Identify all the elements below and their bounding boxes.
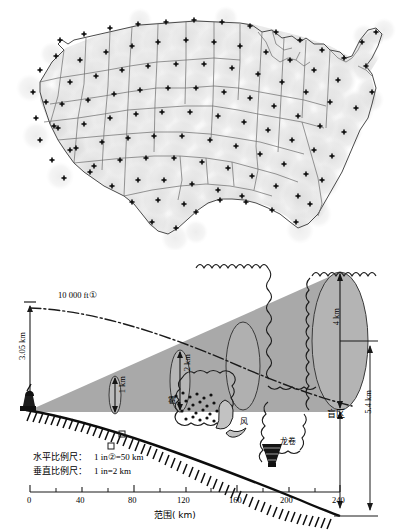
label-beam-width-1km: 1 km — [118, 376, 127, 393]
radar-site-marker — [81, 31, 86, 36]
label-blind-zone: 盲区 — [327, 410, 345, 419]
scale-horizontal-value: 1 in②=50 km — [94, 453, 144, 462]
radar-site-marker — [49, 157, 54, 162]
x-tick-80: 80 — [128, 496, 137, 505]
radar-coverage-map-panel — [0, 0, 399, 250]
coverage-circles-group — [14, 1, 390, 246]
radar-beam-cone-lower — [30, 410, 340, 412]
x-tick-240: 240 — [332, 496, 345, 505]
beam-sample-volume-mid — [226, 322, 260, 410]
x-axis-label: 范围( km) — [154, 511, 196, 520]
scale-vertical-value: 1 in=2 km — [94, 467, 131, 476]
label-depth-5p4km: 5.4 km — [364, 390, 373, 414]
x-tick-0: 0 — [27, 496, 31, 505]
scale-horizontal-label: 水平比例尺： — [33, 453, 87, 462]
label-wind: 风 — [240, 418, 248, 426]
scale-vertical-label: 垂直比例尺： — [33, 467, 87, 476]
label-10000ft: 10 000 ft① — [58, 291, 97, 300]
radar-site-marker — [57, 37, 62, 42]
radar-site-marker — [37, 67, 42, 72]
x-tick-40: 40 — [76, 496, 85, 505]
radar-station-icon — [20, 384, 36, 411]
label-altitude-3p05km: 3.05 km — [18, 332, 27, 360]
label-hail: 雹 — [168, 397, 176, 405]
figure-root: 3.05 km 10 000 ft① 1 km 2 km 4 km 5.4 km… — [0, 0, 399, 531]
radar-site-marker — [107, 25, 112, 30]
label-tornado: 龙卷 — [280, 438, 296, 446]
radar-coverage-map-svg — [0, 0, 399, 250]
x-tick-160: 160 — [229, 496, 242, 505]
label-beam-width-2km: 2 km — [183, 354, 192, 371]
x-tick-200: 200 — [280, 496, 293, 505]
radar-beam-geometry-panel: 3.05 km 10 000 ft① 1 km 2 km 4 km 5.4 km… — [0, 250, 399, 531]
x-tick-120: 120 — [177, 496, 190, 505]
tornado-funnel-icon — [262, 444, 282, 467]
label-beam-width-4km: 4 km — [332, 308, 341, 325]
radar-site-marker — [33, 115, 38, 120]
